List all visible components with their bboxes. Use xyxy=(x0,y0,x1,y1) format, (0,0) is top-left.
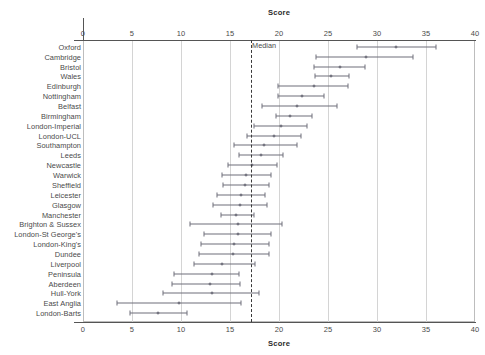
data-point-marker xyxy=(211,292,214,295)
category-label: Leicester xyxy=(0,190,83,199)
gridline xyxy=(377,40,378,322)
data-point-marker xyxy=(238,203,241,206)
confidence-interval-line xyxy=(174,273,239,274)
ci-cap-low xyxy=(262,104,263,109)
x-tick-label-bottom: 15 xyxy=(226,325,235,334)
category-label: Bristol xyxy=(0,62,83,71)
x-tick-label-bottom: 5 xyxy=(130,325,134,334)
data-point-marker xyxy=(209,282,212,285)
ci-cap-low xyxy=(228,163,229,168)
data-point-marker xyxy=(232,243,235,246)
category-label: Newcastle xyxy=(0,161,83,170)
x-tick-label-top: 40 xyxy=(471,29,480,38)
data-point-marker xyxy=(260,154,263,157)
x-tick-label-bottom: 35 xyxy=(422,325,431,334)
ci-cap-low xyxy=(174,271,175,276)
x-tick-label-bottom: 25 xyxy=(324,325,333,334)
ci-cap-high xyxy=(300,133,301,138)
data-point-marker xyxy=(239,193,242,196)
bottom-axis-title: Score xyxy=(268,339,290,348)
category-label: Warwick xyxy=(0,171,83,180)
category-label: London-Imperial xyxy=(0,121,83,130)
category-label: Brighton & Sussex xyxy=(0,220,83,229)
ci-cap-low xyxy=(223,182,224,187)
ci-cap-low xyxy=(253,123,254,128)
forest-plot-figure: Score Score 0055101015152020252530303535… xyxy=(0,0,485,355)
ci-cap-high xyxy=(271,173,272,178)
data-point-marker xyxy=(243,183,246,186)
ci-cap-high xyxy=(253,212,254,217)
ci-cap-low xyxy=(217,192,218,197)
ci-cap-low xyxy=(193,261,194,266)
ci-cap-low xyxy=(203,232,204,237)
ci-cap-high xyxy=(267,202,268,207)
ci-cap-high xyxy=(259,291,260,296)
median-annotation-label: Median xyxy=(252,41,276,50)
ci-cap-high xyxy=(271,232,272,237)
category-label: Wales xyxy=(0,72,83,81)
data-point-marker xyxy=(338,65,341,68)
ci-cap-high xyxy=(348,74,349,79)
category-label: Manchester xyxy=(0,210,83,219)
gridline xyxy=(230,40,231,322)
ci-cap-high xyxy=(365,64,366,69)
ci-cap-high xyxy=(336,104,337,109)
data-point-marker xyxy=(263,144,266,147)
ci-cap-high xyxy=(413,54,414,59)
ci-cap-high xyxy=(296,143,297,148)
x-tick-label-bottom: 0 xyxy=(81,325,85,334)
ci-cap-low xyxy=(198,251,199,256)
data-point-marker xyxy=(313,85,316,88)
ci-cap-high xyxy=(255,261,256,266)
x-tick-label-top: 15 xyxy=(226,29,235,38)
data-point-marker xyxy=(157,312,160,315)
category-label: Aberdeen xyxy=(0,279,83,288)
ci-cap-low xyxy=(316,54,317,59)
x-tick-label-top: 10 xyxy=(177,29,186,38)
data-point-marker xyxy=(231,252,234,255)
ci-cap-low xyxy=(163,291,164,296)
ci-cap-high xyxy=(277,163,278,168)
ci-cap-high xyxy=(282,153,283,158)
ci-cap-high xyxy=(324,94,325,99)
data-point-marker xyxy=(244,174,247,177)
axis-line xyxy=(74,40,476,41)
ci-cap-high xyxy=(238,271,239,276)
category-label: Edinburgh xyxy=(0,82,83,91)
ci-cap-low xyxy=(200,242,201,247)
category-label: Hull-York xyxy=(0,289,83,298)
ci-cap-high xyxy=(269,251,270,256)
median-reference-line xyxy=(251,40,252,322)
confidence-interval-line xyxy=(194,263,256,264)
category-label: Belfast xyxy=(0,102,83,111)
category-label: Leeds xyxy=(0,151,83,160)
y-axis-stub xyxy=(83,18,84,40)
data-point-marker xyxy=(394,45,397,48)
ci-cap-high xyxy=(186,311,187,316)
ci-cap-low xyxy=(221,212,222,217)
category-label: Glasgow xyxy=(0,200,83,209)
gridline xyxy=(279,40,280,322)
data-point-marker xyxy=(236,233,239,236)
data-point-marker xyxy=(365,55,368,58)
data-point-marker xyxy=(234,213,237,216)
category-label: Peninsula xyxy=(0,269,83,278)
ci-cap-low xyxy=(278,94,279,99)
x-tick-label-top: 5 xyxy=(130,29,134,38)
confidence-interval-line xyxy=(262,106,336,107)
ci-cap-high xyxy=(239,281,240,286)
ci-cap-low xyxy=(278,84,279,89)
category-label: London-Barts xyxy=(0,309,83,318)
gridline xyxy=(132,40,133,322)
x-tick-label-bottom: 40 xyxy=(471,325,480,334)
data-point-marker xyxy=(273,134,276,137)
ci-cap-high xyxy=(312,113,313,118)
data-point-marker xyxy=(288,114,291,117)
category-label: East Anglia xyxy=(0,299,83,308)
ci-cap-high xyxy=(435,44,436,49)
data-point-marker xyxy=(300,95,303,98)
category-label: Sheffield xyxy=(0,180,83,189)
data-point-marker xyxy=(295,105,298,108)
category-label: Dundee xyxy=(0,249,83,258)
ci-cap-high xyxy=(269,242,270,247)
